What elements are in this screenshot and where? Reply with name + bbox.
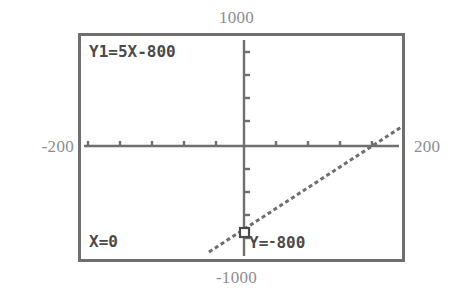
- window-xmin-label: -200: [6, 137, 74, 156]
- trace-cursor[interactable]: [240, 228, 249, 237]
- trace-y-value: 800: [276, 233, 305, 252]
- trace-y-prefix: Y=: [249, 233, 268, 252]
- window-ymin-label: -1000: [0, 268, 473, 287]
- window-ymax-label: 1000: [0, 8, 473, 27]
- calculator-lcd-screen[interactable]: Y1=5X-800 X=0 Y=-800: [78, 33, 405, 262]
- trace-y-readout[interactable]: Y=-800: [249, 233, 305, 251]
- calculator-screenshot: 1000 -1000 -200 200: [0, 0, 473, 305]
- graph-plot-area[interactable]: [81, 36, 402, 259]
- trace-x-readout: X=0: [89, 233, 118, 250]
- equation-label: Y1=5X-800: [89, 43, 176, 60]
- window-xmax-label: 200: [414, 137, 473, 156]
